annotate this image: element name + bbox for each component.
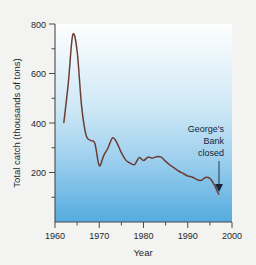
y-tick-label-400: 400 <box>31 119 46 129</box>
x-tick-label-1960: 1960 <box>45 231 65 241</box>
plot-area-background <box>55 24 232 222</box>
annotation-line-3: closed <box>198 148 224 158</box>
figure-container: 800 600 400 200 1960 1970 1980 1990 2000… <box>0 0 256 265</box>
x-axis-title: Year <box>133 247 152 258</box>
x-tick-label-1970: 1970 <box>89 231 109 241</box>
y-axis-title: Total catch (thousands of tons) <box>11 58 22 187</box>
y-tick-label-800: 800 <box>31 20 46 30</box>
annotation-line-2: Bank <box>203 136 224 146</box>
y-tick-label-200: 200 <box>31 168 46 178</box>
x-tick-label-2000: 2000 <box>222 231 242 241</box>
x-tick-label-1980: 1980 <box>133 231 153 241</box>
y-tick-label-600: 600 <box>31 69 46 79</box>
x-tick-label-1990: 1990 <box>178 231 198 241</box>
catch-line-chart: 800 600 400 200 1960 1970 1980 1990 2000… <box>0 0 256 265</box>
annotation-line-1: George's <box>188 124 225 134</box>
